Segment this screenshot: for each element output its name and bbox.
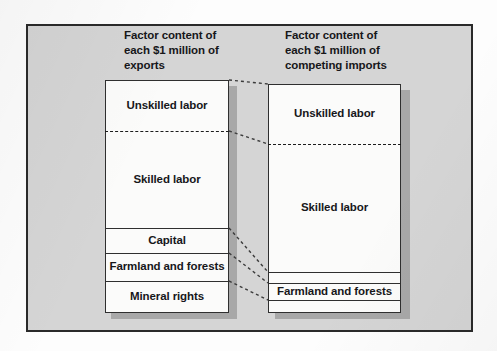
column-title-competing-imports: Factor content of each $1 million of com… [285,28,425,73]
factor-content-diagram: Factor content of each $1 million of exp… [0,0,497,351]
segment-label-competing-imports-1: Skilled labor [268,201,401,213]
segment-label-exports-0: Unskilled labor [105,99,229,111]
segment-divider-exports-1 [105,228,229,229]
segment-label-exports-4: Mineral rights [105,290,229,302]
segment-divider-exports-0 [105,131,229,132]
column-title-exports: Factor content of each $1 million of exp… [124,28,254,73]
segment-label-exports-1: Skilled labor [105,173,229,185]
bar-shadow-imports-side [401,90,410,319]
bar-exports [105,80,229,313]
segment-divider-competing-imports-0 [268,144,401,145]
segment-label-competing-imports-0: Unskilled labor [268,107,401,119]
segment-divider-competing-imports-1 [268,272,401,273]
segment-divider-exports-2 [105,253,229,254]
bar-shadow-exports-bottom [111,313,237,319]
bar-shadow-exports-side [229,86,237,319]
segment-label-exports-2: Capital [105,234,229,246]
segment-divider-exports-3 [105,281,229,282]
bar-shadow-imports-bottom [275,313,410,319]
segment-label-competing-imports-3: Farmland and forests [268,285,401,297]
segment-divider-competing-imports-3 [268,300,401,301]
segment-label-exports-3: Farmland and forests [105,260,229,272]
